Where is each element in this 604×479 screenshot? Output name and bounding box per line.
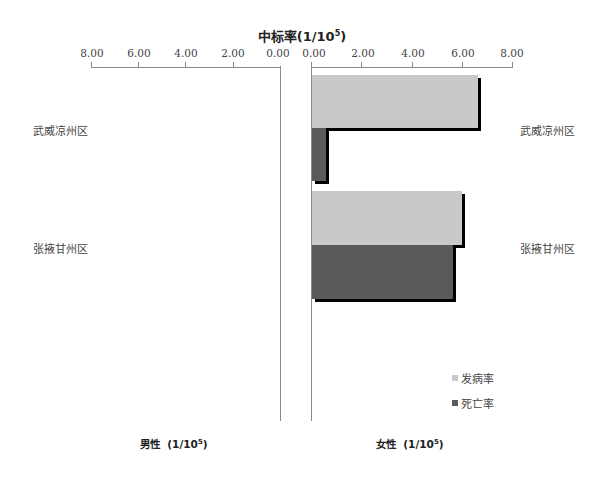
legend-swatch-light-icon [452,375,458,381]
right-tick-label: 2.00 [351,47,374,59]
legend-swatch-dark-icon [452,400,458,406]
legend-label: 发病率 [461,370,494,386]
right-tick [361,62,362,67]
bar-incidence-zhangye [312,191,462,245]
category-label-right: 张掖甘州区 [520,240,575,256]
legend: 发病率 死亡率 [452,370,494,411]
category-label-left: 武威凉州区 [33,122,88,138]
bar-mortality-zhangye [312,245,453,299]
right-x-axis [311,67,513,68]
bar-incidence-wuwei [312,75,478,128]
right-tick [412,62,413,67]
legend-item-incidence: 发病率 [452,370,494,386]
left-y-axis [280,66,281,421]
bar-mortality-wuwei [312,128,326,181]
left-tick [91,62,92,67]
left-tick [233,62,234,67]
right-tick [462,62,463,67]
category-label-left: 张掖甘州区 [33,240,88,256]
legend-item-mortality: 死亡率 [452,395,494,411]
right-tick-label: 6.00 [451,47,474,59]
right-tick-label: 4.00 [401,47,424,59]
left-tick-label: 2.00 [221,47,244,59]
chart-title: 中标率(1/105) [0,26,604,45]
left-tick [138,62,139,67]
left-x-axis [91,67,280,68]
right-tick-label: 0.00 [302,47,325,59]
left-tick-label: 6.00 [127,47,150,59]
left-tick-label: 4.00 [174,47,197,59]
right-tick [512,62,513,67]
male-axis-label: 男性 (1/105) [140,436,208,451]
legend-label: 死亡率 [461,395,494,411]
left-tick-label: 0.00 [266,47,289,59]
right-tick-label: 8.00 [500,47,523,59]
female-axis-label: 女性 (1/105) [376,436,444,451]
left-tick [185,62,186,67]
category-label-right: 武威凉州区 [520,122,575,138]
left-tick-label: 8.00 [80,47,103,59]
